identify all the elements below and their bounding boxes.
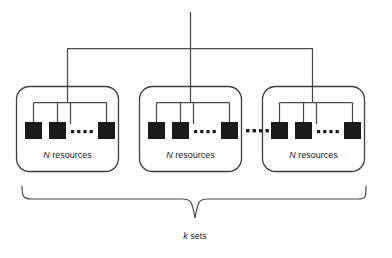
resource-square[interactable] [221,122,238,139]
resource-square[interactable] [295,122,312,139]
resource-group-3[interactable]: N resources [263,87,365,172]
group-3-ellipsis [317,130,339,133]
resource-square[interactable] [25,122,42,139]
group-3-label-rest: resources [296,150,339,160]
group-1-label: N resources [43,150,92,160]
resource-tree-diagram: N resources N resources [0,0,392,258]
resource-square[interactable] [344,122,361,139]
group-2-label-rest: resources [173,150,216,160]
group-1-label-rest: resources [50,150,93,160]
group-2-ellipsis [194,130,216,133]
group-1-ellipsis [71,130,93,133]
group-2-label: N resources [166,150,215,160]
diagram-canvas: N resources N resources [0,0,392,258]
resource-square[interactable] [98,122,115,139]
brace-label: k sets [183,231,207,241]
brace-label-rest: sets [188,231,208,241]
resource-square[interactable] [172,122,189,139]
resource-square[interactable] [148,122,165,139]
between-groups-ellipsis [246,129,269,132]
resource-square[interactable] [271,122,288,139]
resource-square[interactable] [49,122,66,139]
k-sets-brace [22,186,366,218]
group-3-label: N resources [289,150,338,160]
